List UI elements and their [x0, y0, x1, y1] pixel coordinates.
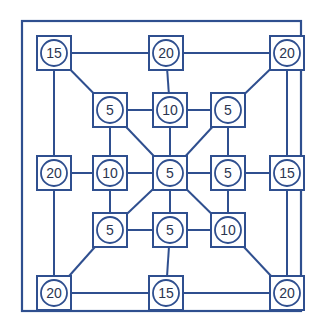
- node-o-bc: 15: [149, 276, 183, 310]
- node-o-mr: 15: [270, 156, 304, 190]
- node-value: 5: [106, 222, 114, 238]
- node-i-tc: 10: [153, 93, 187, 127]
- node-o-br: 20: [270, 276, 304, 310]
- network-diagram: 1520202015201520510510555510: [0, 0, 336, 334]
- node-i-br: 10: [211, 213, 245, 247]
- node-o-ml: 20: [37, 156, 71, 190]
- node-value: 20: [279, 285, 295, 301]
- node-i-tl: 5: [93, 93, 127, 127]
- node-value: 5: [224, 102, 232, 118]
- node-value: 10: [102, 165, 118, 181]
- node-value: 20: [46, 285, 62, 301]
- node-o-bl: 20: [37, 276, 71, 310]
- diagram-canvas: 1520202015201520510510555510: [0, 0, 336, 334]
- node-value: 20: [46, 165, 62, 181]
- node-o-tl: 15: [37, 36, 71, 70]
- node-value: 10: [220, 222, 236, 238]
- node-value: 5: [166, 165, 174, 181]
- node-value: 20: [158, 45, 174, 61]
- node-value: 20: [279, 45, 295, 61]
- node-value: 5: [224, 165, 232, 181]
- node-value: 15: [279, 165, 295, 181]
- node-value: 10: [162, 102, 178, 118]
- node-i-bc: 5: [153, 213, 187, 247]
- node-o-tr: 20: [270, 36, 304, 70]
- node-o-tc: 20: [149, 36, 183, 70]
- node-i-bl: 5: [93, 213, 127, 247]
- node-value: 15: [46, 45, 62, 61]
- node-value: 15: [158, 285, 174, 301]
- node-i-mr: 5: [211, 156, 245, 190]
- node-i-c: 5: [153, 156, 187, 190]
- node-i-tr: 5: [211, 93, 245, 127]
- node-i-ml: 10: [93, 156, 127, 190]
- node-value: 5: [106, 102, 114, 118]
- node-value: 5: [166, 222, 174, 238]
